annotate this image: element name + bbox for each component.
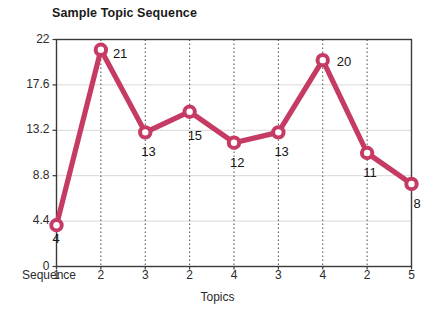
data-point-value-label: 4 (53, 231, 60, 246)
vertical-gridlines (57, 40, 368, 267)
y-axis-tick-label: 4.4 (33, 213, 50, 227)
data-point-value-label: 20 (337, 54, 351, 69)
data-point-value-label: 13 (274, 144, 288, 159)
data-point-value-label: 8 (414, 196, 421, 211)
x-axis-tick-label: 4 (303, 268, 343, 282)
data-point-value-label: 12 (230, 155, 244, 170)
x-axis-tick-label: 3 (125, 268, 165, 282)
x-axis-tick-label: 3 (258, 268, 298, 282)
x-axis-tick-label: 4 (214, 268, 254, 282)
data-point-value-label: 13 (141, 144, 155, 159)
data-point-value-label: 15 (188, 128, 202, 143)
chart-container: Sample Topic Sequence 04.48.813.217.622 … (0, 0, 435, 320)
data-point-value-label: 21 (113, 46, 127, 61)
x-axis-title: Topics (0, 290, 435, 304)
y-axis-tick-label: 8.8 (33, 168, 50, 182)
data-point-value-label: 11 (363, 165, 377, 180)
y-axis-tick-label: 17.6 (26, 77, 49, 91)
y-axis-tick-label: 13.2 (26, 122, 49, 136)
y-axis-tick-label: 22 (36, 32, 49, 46)
x-axis-tick-label: 5 (392, 268, 432, 282)
x-axis-prefix-label: Sequence (22, 268, 76, 282)
x-axis-tick-label: 2 (347, 268, 387, 282)
x-axis-tick-label: 2 (170, 268, 210, 282)
x-axis-tick-label: 2 (81, 268, 121, 282)
